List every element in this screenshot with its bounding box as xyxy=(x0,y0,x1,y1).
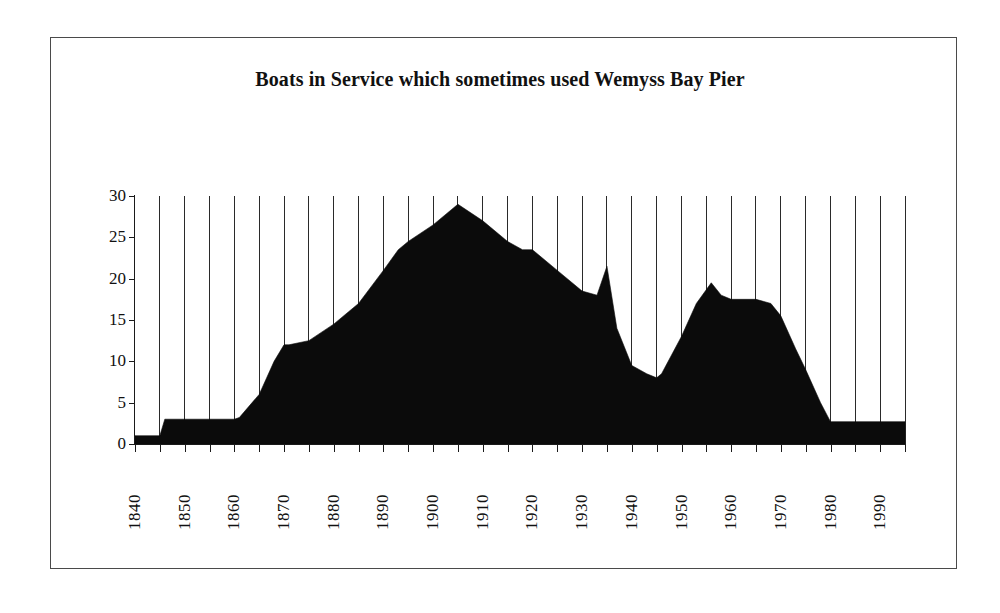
x-axis-tick xyxy=(682,445,683,452)
x-axis-tick xyxy=(781,445,782,452)
y-axis-tick xyxy=(129,320,135,321)
y-axis-tick-label: 30 xyxy=(78,187,126,204)
x-axis-tick-label: 1890 xyxy=(374,460,392,530)
x-axis-tick xyxy=(508,445,509,452)
x-axis-tick-label: 1950 xyxy=(673,460,691,530)
x-axis-tick xyxy=(234,445,235,452)
x-axis-tick xyxy=(433,445,434,452)
x-axis-line xyxy=(134,444,906,445)
x-axis-tick xyxy=(657,445,658,452)
x-axis-tick-label: 1910 xyxy=(474,460,492,530)
y-axis-tick-label: 5 xyxy=(78,394,126,411)
x-axis-tick-label: 1860 xyxy=(225,460,243,530)
y-axis-tick-label: 15 xyxy=(78,311,126,328)
area-series xyxy=(135,196,905,444)
x-axis-tick xyxy=(185,445,186,452)
x-axis-tick xyxy=(458,445,459,452)
area-series-path xyxy=(135,204,905,444)
x-axis-tick xyxy=(135,445,136,452)
x-axis-tick xyxy=(905,445,906,452)
x-axis-tick xyxy=(160,445,161,452)
x-axis-tick-label: 1870 xyxy=(275,460,293,530)
y-axis-tick-label: 0 xyxy=(78,435,126,452)
plot-area xyxy=(135,196,905,444)
x-axis-tick xyxy=(334,445,335,452)
x-axis-tick-label: 1930 xyxy=(573,460,591,530)
x-axis-tick xyxy=(557,445,558,452)
chart-title: Boats in Service which sometimes used We… xyxy=(0,68,1000,91)
x-axis-tick xyxy=(582,445,583,452)
y-axis-tick-label-text: 25 xyxy=(78,228,126,245)
x-axis-tick-label: 1980 xyxy=(822,460,840,530)
y-axis-tick xyxy=(129,237,135,238)
x-axis-tick xyxy=(532,445,533,452)
y-axis-tick xyxy=(129,403,135,404)
x-axis-tick xyxy=(756,445,757,452)
y-axis-tick xyxy=(129,279,135,280)
y-axis-tick-label-text: 20 xyxy=(78,270,126,287)
y-axis-tick xyxy=(129,196,135,197)
x-axis-tick xyxy=(309,445,310,452)
x-axis-tick-label: 1990 xyxy=(871,460,889,530)
x-axis-tick xyxy=(632,445,633,452)
x-axis-tick-label: 1880 xyxy=(325,460,343,530)
x-axis-tick xyxy=(359,445,360,452)
x-axis-tick xyxy=(383,445,384,452)
x-axis-tick xyxy=(806,445,807,452)
y-axis-tick-label: 25 xyxy=(78,228,126,245)
x-axis-tick xyxy=(259,445,260,452)
x-axis-tick-label: 1900 xyxy=(424,460,442,530)
x-axis-tick xyxy=(284,445,285,452)
y-axis-tick-label-text: 15 xyxy=(78,311,126,328)
x-axis-tick xyxy=(831,445,832,452)
x-axis-tick xyxy=(880,445,881,452)
x-axis-tick xyxy=(408,445,409,452)
x-axis-tick-label: 1960 xyxy=(722,460,740,530)
x-axis-tick xyxy=(210,445,211,452)
chart-figure: Boats in Service which sometimes used We… xyxy=(0,0,1000,613)
x-axis-tick-label: 1920 xyxy=(523,460,541,530)
x-axis-tick xyxy=(483,445,484,452)
x-axis-tick xyxy=(607,445,608,452)
x-axis-tick xyxy=(731,445,732,452)
y-axis-tick-label-text: 10 xyxy=(78,352,126,369)
y-axis-tick-label-text: 5 xyxy=(78,394,126,411)
y-axis-tick-label: 10 xyxy=(78,352,126,369)
x-axis-tick xyxy=(706,445,707,452)
y-axis-tick-label: 20 xyxy=(78,270,126,287)
x-axis-tick xyxy=(855,445,856,452)
y-axis-tick-label-text: 30 xyxy=(78,187,126,204)
x-axis-tick-label: 1840 xyxy=(126,460,144,530)
y-axis-tick-label-text: 0 xyxy=(78,435,126,452)
x-axis-tick-label: 1850 xyxy=(176,460,194,530)
y-axis-tick xyxy=(129,361,135,362)
x-axis-tick-label: 1970 xyxy=(772,460,790,530)
x-axis-tick-label: 1940 xyxy=(623,460,641,530)
